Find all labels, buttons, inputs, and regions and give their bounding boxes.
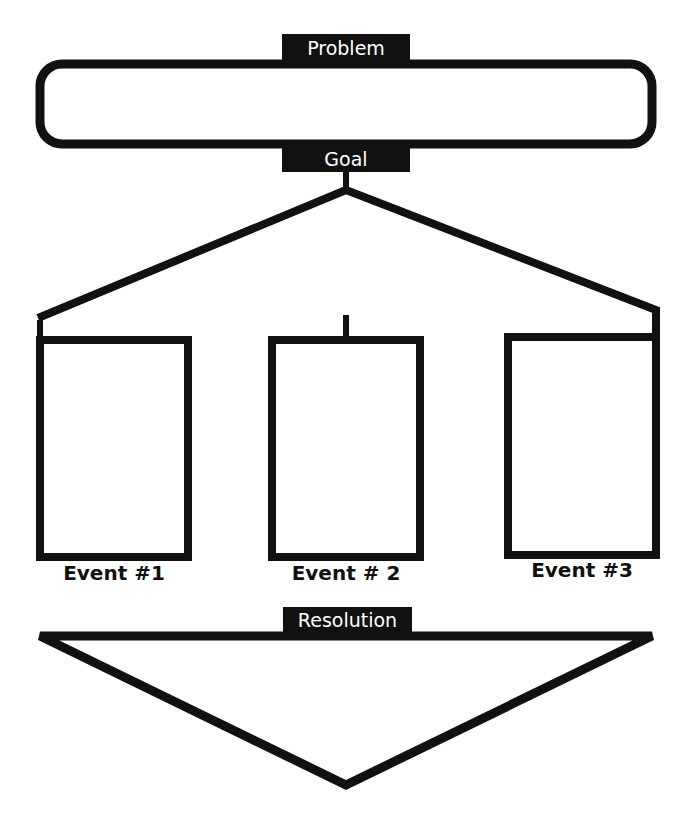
problem-label-text: Problem bbox=[307, 37, 385, 59]
resolution-label-text: Resolution bbox=[298, 609, 397, 631]
story-map-diagram bbox=[0, 0, 692, 827]
event-2-box[interactable] bbox=[272, 340, 420, 557]
goal-branch-right bbox=[346, 190, 656, 340]
resolution-label: Resolution bbox=[283, 607, 412, 633]
goal-branch-left bbox=[38, 190, 346, 318]
problem-box[interactable] bbox=[40, 64, 652, 144]
problem-label: Problem bbox=[282, 34, 410, 61]
event-2-label: Event # 2 bbox=[266, 561, 426, 585]
event-1-box[interactable] bbox=[40, 340, 188, 557]
event-3-label: Event #3 bbox=[502, 558, 662, 582]
goal-label-text: Goal bbox=[324, 148, 367, 170]
event-3-box[interactable] bbox=[508, 337, 656, 555]
resolution-triangle[interactable] bbox=[40, 636, 652, 785]
goal-label: Goal bbox=[282, 146, 410, 172]
event-1-label: Event #1 bbox=[34, 561, 194, 585]
